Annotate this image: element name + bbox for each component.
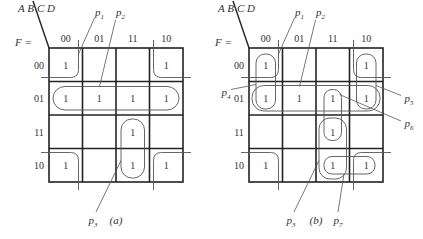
column-header: 11	[328, 33, 338, 44]
kmap-cell-value: 1	[164, 160, 169, 171]
implicant-loop-p1	[41, 40, 79, 78]
implicant-loop-p1	[154, 153, 192, 191]
column-header: 01	[294, 33, 304, 44]
kmap-cell-value: 1	[330, 93, 335, 104]
implicant-label-p2: p2	[115, 6, 126, 21]
kmap-diagram: A BC DF =00011110000111101111111111p1p2p…	[0, 0, 423, 239]
column-header: 11	[128, 33, 138, 44]
column-header: 10	[361, 33, 371, 44]
leader-p3	[294, 161, 319, 213]
kmap-cell-value: 1	[63, 60, 68, 71]
implicant-label-p7: p7	[333, 214, 344, 229]
implicant-label-p3: p3	[88, 214, 99, 229]
implicant-label-p4: p4	[221, 86, 232, 101]
kmap-cell-value: 1	[164, 93, 169, 104]
row-header: 11	[34, 127, 44, 138]
row-header: 00	[234, 60, 244, 71]
implicant-loop-p1	[154, 40, 192, 78]
kmap-cell-value: 1	[63, 160, 68, 171]
kmap-cell-value: 1	[330, 127, 335, 138]
kmap-cell-value: 1	[63, 93, 68, 104]
implicant-label-p5: p5	[404, 92, 415, 107]
kmap-cell-value: 1	[330, 160, 335, 171]
column-header: 10	[161, 33, 171, 44]
kmap-cell-value: 1	[364, 93, 369, 104]
leader-p2	[300, 20, 316, 87]
kmap-cell-value: 1	[130, 127, 135, 138]
kmap-cell-value: 1	[130, 93, 135, 104]
row-header: 00	[34, 60, 44, 71]
kmap-cell-value: 1	[364, 60, 369, 71]
kmap-cell-value: 1	[97, 93, 102, 104]
row-header: 01	[234, 93, 244, 104]
kmap-cell-value: 1	[263, 93, 268, 104]
row-header: 11	[234, 127, 244, 138]
row-header: 10	[234, 160, 244, 171]
leader-p4	[231, 85, 256, 90]
column-header: 00	[61, 33, 71, 44]
kmap-cell-value: 1	[364, 160, 369, 171]
kmap-cell-value: 1	[263, 60, 268, 71]
implicant-label-p2: p2	[315, 6, 326, 21]
column-header: 01	[94, 33, 104, 44]
figure-caption: (a)	[110, 214, 123, 227]
kmap-b: A BC DF =00011110000111101111111111p1p2p…	[214, 1, 414, 229]
row-header: 01	[34, 93, 44, 104]
kmap-cell-value: 1	[263, 160, 268, 171]
kmap-cell-value: 1	[297, 93, 302, 104]
leader-p2	[100, 20, 116, 87]
function-label: F =	[14, 36, 32, 48]
function-label: F =	[214, 36, 232, 48]
implicant-label-p6: p6	[404, 117, 415, 132]
implicant-label-p1: p1	[94, 6, 104, 21]
figure-caption: (b)	[310, 214, 323, 227]
column-variables-label: C D	[237, 2, 255, 14]
row-variables-label: A B	[17, 2, 34, 14]
row-variables-label: A B	[217, 2, 234, 14]
kmap-a: A BC DF =00011110000111101111111111p1p2p…	[14, 1, 191, 229]
kmap-cell-value: 1	[164, 60, 169, 71]
implicant-label-p3: p3	[286, 214, 297, 229]
leader-p7	[338, 174, 344, 212]
implicant-loop-p1	[241, 40, 279, 78]
implicant-label-p1: p1	[294, 6, 304, 21]
implicant-loop-p1	[241, 153, 279, 191]
row-header: 10	[34, 160, 44, 171]
column-variables-label: C D	[37, 2, 55, 14]
leader-p3	[96, 161, 121, 213]
kmap-cell-value: 1	[130, 160, 135, 171]
implicant-loop-p1	[354, 40, 392, 78]
implicant-loop-p1	[41, 153, 79, 191]
column-header: 00	[261, 33, 271, 44]
